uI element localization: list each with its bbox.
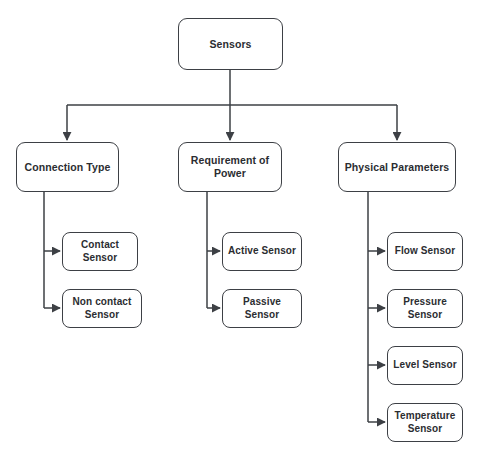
node-connection-type-label: Connection Type bbox=[21, 161, 115, 174]
node-temperature-sensor-label: Temperature Sensor bbox=[391, 410, 460, 434]
node-pressure-sensor[interactable]: Pressure Sensor bbox=[387, 289, 463, 328]
node-active-sensor-label: Active Sensor bbox=[224, 245, 300, 257]
node-flow-sensor-label: Flow Sensor bbox=[391, 245, 460, 257]
sensor-classification-diagram: Sensors Connection Type Requirement of P… bbox=[0, 0, 478, 454]
node-requirement-of-power-label: Requirement of Power bbox=[187, 154, 273, 180]
node-physical-parameters[interactable]: Physical Parameters bbox=[338, 142, 456, 192]
node-pressure-sensor-label: Pressure Sensor bbox=[399, 296, 451, 320]
node-requirement-of-power[interactable]: Requirement of Power bbox=[178, 142, 282, 192]
node-passive-sensor[interactable]: Passive Sensor bbox=[222, 289, 302, 328]
node-physical-parameters-label: Physical Parameters bbox=[341, 161, 454, 174]
node-sensors-label: Sensors bbox=[205, 38, 255, 51]
node-temperature-sensor[interactable]: Temperature Sensor bbox=[387, 403, 463, 442]
node-level-sensor[interactable]: Level Sensor bbox=[387, 346, 463, 385]
node-non-contact-sensor[interactable]: Non contact Sensor bbox=[62, 289, 142, 328]
node-connection-type[interactable]: Connection Type bbox=[16, 142, 119, 192]
node-contact-sensor[interactable]: Contact Sensor bbox=[62, 232, 138, 271]
node-level-sensor-label: Level Sensor bbox=[389, 359, 460, 371]
node-flow-sensor[interactable]: Flow Sensor bbox=[387, 232, 463, 271]
node-contact-sensor-label: Contact Sensor bbox=[77, 239, 123, 263]
node-passive-sensor-label: Passive Sensor bbox=[239, 296, 285, 320]
node-sensors[interactable]: Sensors bbox=[178, 18, 283, 70]
node-non-contact-sensor-label: Non contact Sensor bbox=[69, 296, 136, 320]
node-active-sensor[interactable]: Active Sensor bbox=[222, 232, 302, 271]
